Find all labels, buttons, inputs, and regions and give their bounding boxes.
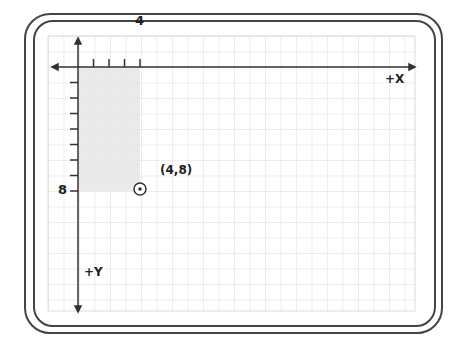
x-tick-label: 4 [135, 13, 144, 28]
x-axis-label: +X [385, 72, 404, 86]
y-tick-label: 8 [58, 182, 67, 197]
y-axis-label: +Y [84, 265, 103, 279]
coordinate-grid [0, 0, 462, 354]
point-label: (4,8) [160, 163, 192, 177]
shaded-region [78, 67, 140, 191]
point-marker-icon [134, 183, 146, 195]
